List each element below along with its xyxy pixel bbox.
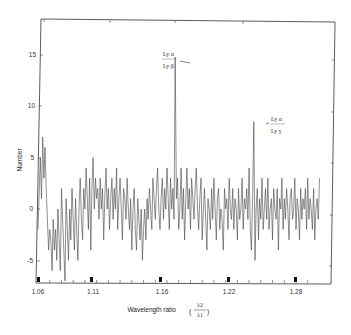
y-axis-title: Number xyxy=(16,148,23,172)
svg-text:Ly β: Ly β xyxy=(163,63,174,69)
y-tick-label: 5 xyxy=(30,154,34,161)
annotation-lya-lyb: Ly α Ly β xyxy=(162,51,190,69)
arrow-icon xyxy=(180,61,190,63)
svg-text:(: ( xyxy=(189,308,192,316)
x-axis-fraction: ( λ2 λ1 ) xyxy=(189,302,209,318)
svg-text:Ly α: Ly α xyxy=(163,51,175,57)
y-axis: 15 10 5 0 -5 Number xyxy=(16,51,43,264)
svg-text:λ1: λ1 xyxy=(197,312,203,318)
x-tick-label: 1.11 xyxy=(87,288,100,295)
svg-text:Ly γ: Ly γ xyxy=(271,128,282,134)
annotation-lya-lyg: Ly α Ly γ xyxy=(266,116,285,134)
x-axis-title: Wavelength ratio xyxy=(127,306,176,314)
x-tick-label: 1.28 xyxy=(290,288,303,295)
y-tick-label: 15 xyxy=(29,51,37,58)
x-tick-label: 1.22 xyxy=(223,288,236,295)
svg-text:Ly α: Ly α xyxy=(271,116,283,122)
x-tick-label: 1.16 xyxy=(156,288,169,295)
plot-frame xyxy=(36,19,335,284)
arrow-icon xyxy=(266,123,269,124)
y-tick-label: 0 xyxy=(29,205,33,212)
wavelength-ratio-chart: 15 10 5 0 -5 Number 1.06 1.11 1.16 1.22 … xyxy=(0,0,351,335)
svg-text:): ) xyxy=(207,308,209,316)
y-tick-label: 10 xyxy=(28,102,36,109)
x-tick-label: 1.06 xyxy=(32,288,45,295)
data-series-line xyxy=(38,57,320,281)
svg-text:λ2: λ2 xyxy=(197,302,203,308)
y-tick-label: -5 xyxy=(27,257,33,264)
